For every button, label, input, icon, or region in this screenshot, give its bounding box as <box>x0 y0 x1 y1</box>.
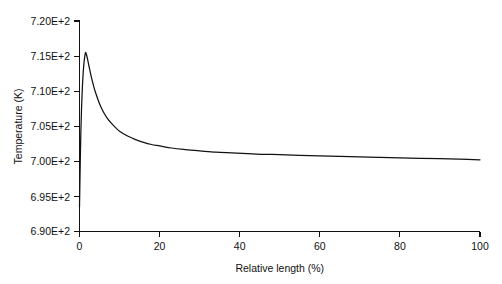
x-tick-label: 100 <box>471 240 489 252</box>
y-tick-label: 7.10E+2 <box>31 85 71 97</box>
x-tick-label: 0 <box>77 240 83 252</box>
chart-background <box>0 0 502 284</box>
y-tick-label: 7.20E+2 <box>31 15 71 27</box>
y-tick-label: 7.05E+2 <box>31 120 71 132</box>
x-axis-title: Relative length (%) <box>235 262 324 274</box>
chart-figure: 7.20E+2 7.15E+2 7.10E+2 7.05E+2 7.00E+2 … <box>0 0 502 284</box>
y-axis-title: Temperature (K) <box>12 89 24 165</box>
y-tick-label: 7.00E+2 <box>31 155 71 167</box>
x-tick-label: 80 <box>394 240 406 252</box>
x-tick-label: 20 <box>154 240 166 252</box>
y-tick-label: 7.15E+2 <box>31 50 71 62</box>
y-tick-label: 6.95E+2 <box>31 191 71 203</box>
y-tick-label: 6.90E+2 <box>31 225 71 237</box>
x-tick-label: 40 <box>234 240 246 252</box>
temperature-vs-relative-length-chart: 7.20E+2 7.15E+2 7.10E+2 7.05E+2 7.00E+2 … <box>0 0 502 284</box>
x-tick-label: 60 <box>314 240 326 252</box>
